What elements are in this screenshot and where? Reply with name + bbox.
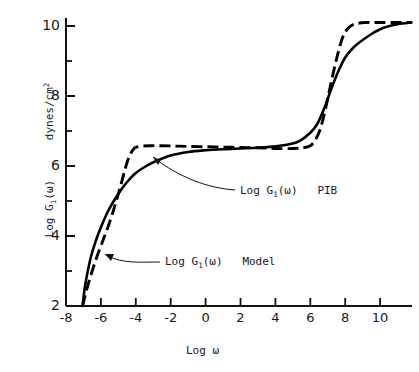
x-tick-label: -2 [156,310,186,325]
pib-annotation: Log G1(ω) PIB [240,184,337,199]
x-tick-label: 10 [365,310,395,325]
x-axis-title: Log ω [186,344,219,357]
x-tick-label: 0 [191,310,221,325]
chart-figure: 246810-8-6-4-20246810 Log G1(ω) dynes/cm… [0,0,419,372]
y-axis-title: Log G1(ω) dynes/cm2 [38,50,58,270]
model-leader-line [106,255,160,262]
model-leader-arrowhead [105,254,114,261]
y-axis-title-text: Log G1(ω) dynes/cm2 [43,83,56,238]
x-tick-label: 8 [330,310,360,325]
x-tick-label: -4 [121,310,151,325]
y-tick-label: 10 [34,17,60,33]
y-axis-ticks [66,26,75,306]
x-tick-label: -8 [51,310,81,325]
x-tick-label: 2 [226,310,256,325]
pib-leader-line [153,157,235,190]
x-tick-label: 4 [260,310,290,325]
x-tick-label: 6 [295,310,325,325]
model-annotation: Log G1(ω) Model [165,255,276,270]
x-axis-ticks [66,298,380,306]
x-tick-label: -6 [86,310,116,325]
